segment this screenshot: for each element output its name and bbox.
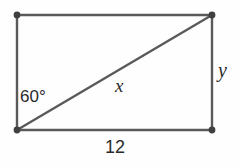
geometry-figure: 60° x y 12 <box>0 0 241 166</box>
vertex-dot-top-left <box>14 12 21 19</box>
vertex-dot-top-right <box>209 12 216 19</box>
angle-label-60-degrees: 60° <box>20 88 46 105</box>
diagonal-length-label-x: x <box>115 76 123 95</box>
diagonal-line <box>17 15 212 130</box>
base-length-label-12: 12 <box>105 138 125 156</box>
vertex-dot-bottom-left <box>14 127 21 134</box>
right-side-length-label-y: y <box>218 60 227 80</box>
vertex-dot-bottom-right <box>209 127 216 134</box>
